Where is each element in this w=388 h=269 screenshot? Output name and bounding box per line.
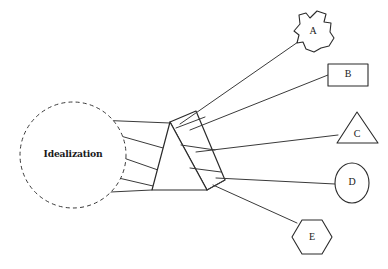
shape-label-a: A — [309, 25, 317, 36]
shape-label-c: C — [354, 128, 361, 139]
output-shape-b[interactable]: B — [328, 64, 368, 86]
output-shape-c[interactable]: C — [337, 112, 378, 143]
outgoing-ray-to-e — [213, 185, 297, 223]
shape-label-b: B — [345, 68, 352, 79]
output-shape-a[interactable]: A — [294, 11, 334, 52]
outgoing-ray-to-c — [196, 135, 338, 152]
shape-label-e: E — [309, 231, 315, 242]
output-shape-d[interactable]: D — [335, 163, 369, 203]
outgoing-ray-to-a — [180, 42, 298, 124]
outgoing-ray-to-d — [216, 178, 335, 184]
diagram-canvas: Idealization A B — [0, 0, 388, 269]
idealization-label: Idealization — [44, 148, 103, 159]
output-shape-e[interactable]: E — [292, 220, 332, 254]
shape-label-d: D — [348, 176, 355, 187]
idealization-prism-diagram: Idealization A B — [0, 0, 388, 269]
